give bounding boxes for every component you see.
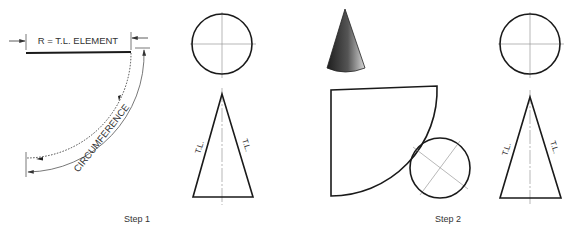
tl-label-right: T.L. [240,138,253,153]
tl-label-left: T.L. [193,140,206,155]
tl-label-left: T.L. [500,142,513,157]
step2-front-view: T.L. T.L. [500,90,561,205]
step2-top-view [498,12,564,78]
step2-caption: Step 2 [435,214,461,224]
radius-label: R = T.L. ELEMENT [38,35,119,46]
center-line-diagonal-a [413,147,468,189]
step1-caption: Step 1 [124,214,150,224]
step2-cone-pictorial [327,9,365,72]
circumference-label: CIRCUMFERENCE [71,102,131,174]
tl-label-right: T.L. [548,140,561,155]
step1-development-construction: R = T.L. ELEMENT CIRCUMFERENCE [9,32,150,177]
step1-top-view [190,12,256,78]
shaded-cone [327,9,365,72]
cone-development-diagram: R = T.L. ELEMENT CIRCUMFERENCE T.L. T.L.… [0,0,579,236]
circumference-dotted-arc [26,53,131,158]
center-line-diagonal-b [420,141,460,195]
step1-front-view: T.L. T.L. [193,88,253,205]
radius-line [26,52,131,53]
pattern-sector [331,86,437,196]
step2-development-pattern [331,86,437,196]
step2-base-circle [410,138,470,198]
